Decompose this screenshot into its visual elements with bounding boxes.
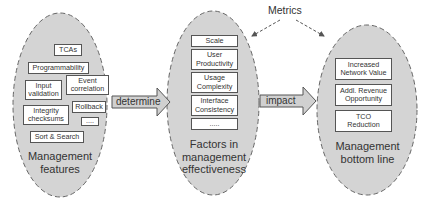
ellipse-title-factors-effectiveness: Factors in management effectiveness — [168, 138, 260, 176]
ellipse-title-bottom-line: Management bottom line — [320, 140, 415, 165]
factor-box-ellipsis: ..... — [191, 118, 238, 130]
factor-box-usage-complexity: Usage Complexity — [191, 72, 238, 93]
feature-box-programmability: Programmability — [28, 62, 89, 74]
feature-box-event-correlation: Event correlation — [66, 75, 109, 95]
bottomline-box-tco-reduction: TCO Reduction — [335, 110, 392, 132]
bottomline-box-revenue-opportunity: Addl. Revenue Opportunity — [335, 84, 392, 106]
determine-label: determine — [116, 96, 160, 107]
metrics-arrow-left — [252, 20, 280, 36]
feature-box-tcas: TCAs — [54, 44, 82, 56]
metrics-label: Metrics — [268, 4, 302, 16]
metrics-arrow-right — [296, 20, 324, 36]
ellipse-title-management-features: Management features — [15, 150, 105, 175]
factor-box-interface-consistency: Interface Consistency — [191, 95, 238, 116]
factor-box-scale: Scale — [191, 35, 238, 47]
feature-box-ellipsis: .... — [81, 117, 99, 126]
factor-box-user-productivity: User Productivity — [191, 49, 238, 70]
feature-box-sort-search: Sort & Search — [30, 131, 84, 143]
diagram-canvas: Metrics TCAs Programmability Input valid… — [0, 0, 426, 206]
feature-box-integrity-checksums: Integrity checksums — [23, 105, 69, 125]
feature-box-rollback: Rollback — [72, 101, 106, 113]
feature-box-input-validation: Input validation — [25, 80, 62, 100]
bottomline-box-network-value: Increased Network Value — [335, 58, 392, 80]
impact-label: impact — [266, 95, 295, 106]
